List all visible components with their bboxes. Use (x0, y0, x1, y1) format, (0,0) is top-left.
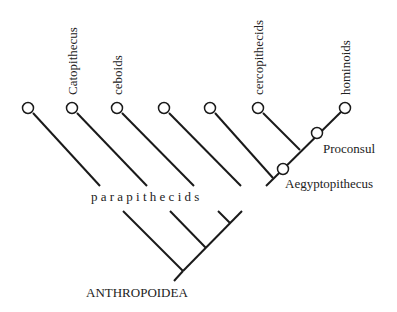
label-parapithecids: p a r a p i t h e c i d s (91, 189, 199, 204)
node-proconsul (312, 128, 323, 139)
branch-cercopithecids (263, 113, 300, 150)
node-aegyptopithecus (278, 164, 289, 175)
root-stem (174, 271, 183, 281)
label-ceboids: ceboids (110, 55, 125, 95)
label-cercopithecids: cercopithecids (251, 20, 266, 95)
branch-2-upper (77, 113, 147, 186)
tip-node-catopithecus (67, 103, 78, 114)
branch-1-upper (33, 113, 100, 186)
branch-3-lower (218, 211, 230, 223)
label-aegyptopithecus: Aegyptopithecus (285, 176, 373, 191)
label-hominoids: hominoids (338, 40, 353, 95)
tip-node-ceboids (112, 103, 123, 114)
spine-lower (183, 211, 242, 271)
tip-node-1 (23, 103, 34, 114)
label-anthropoidea: ANTHROPOIDEA (86, 285, 188, 300)
tip-node-4 (159, 103, 170, 114)
tip-node-5 (205, 103, 216, 114)
branch-4-upper (169, 113, 241, 186)
branch-2-lower (170, 211, 206, 248)
label-catopithecus: Catopithecus (65, 27, 80, 95)
label-proconsul: Proconsul (323, 141, 375, 156)
branch-3-upper (122, 113, 194, 186)
branch-1-lower (123, 211, 183, 271)
cladogram: Catopithecus ceboids cercopithecids homi… (0, 0, 397, 312)
tip-node-cercopithecids (253, 103, 264, 114)
tip-node-hominoids (340, 103, 351, 114)
